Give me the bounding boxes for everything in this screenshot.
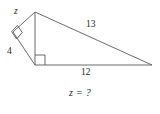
right-angle-marker-icon xyxy=(35,55,45,65)
side-label-4: 4 xyxy=(7,47,12,57)
question-prompt: z = ? xyxy=(0,88,160,98)
side-label-12: 12 xyxy=(81,68,91,78)
side-label-z: z xyxy=(14,7,18,17)
side-label-13: 13 xyxy=(86,20,96,30)
triangle-side-four xyxy=(13,32,35,65)
geometry-figure: z 4 13 12 z = ? xyxy=(0,0,160,114)
